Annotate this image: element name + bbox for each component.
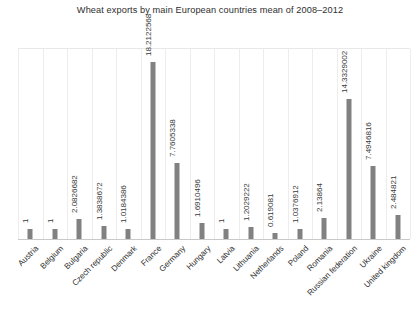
bar-value-label: 1.0376912 — [291, 185, 300, 223]
bar-value-label: 1 — [46, 219, 55, 223]
bar-value-label: 1.0184386 — [119, 185, 128, 223]
bar[interactable] — [101, 226, 106, 239]
bar[interactable] — [273, 233, 278, 239]
bar-value-label: 1 — [217, 219, 226, 223]
bar-value-label: 0.619081 — [266, 194, 275, 227]
category-label: Hungary — [184, 244, 212, 272]
category-label: Latvia — [215, 244, 236, 265]
bar[interactable] — [77, 219, 82, 239]
bar-slot: 2.13864 — [312, 49, 337, 239]
gridline — [410, 49, 411, 239]
bar-value-label: 7.4946816 — [364, 122, 373, 160]
bar[interactable] — [199, 223, 204, 239]
bar-value-label: 2.13864 — [315, 183, 324, 212]
bar[interactable] — [248, 227, 253, 239]
bar[interactable] — [126, 229, 131, 239]
bar-value-label: 7.7605338 — [168, 120, 177, 158]
bar-slot: 1 — [43, 49, 68, 239]
bar[interactable] — [322, 218, 327, 239]
category-axis-labels: AustriaBelgiumBulgariaCzech republicDenm… — [18, 242, 410, 330]
bar-value-label: 1 — [21, 219, 30, 223]
bar-slot: 7.4946816 — [361, 49, 386, 239]
bar-slot: 14.3329002 — [337, 49, 362, 239]
bar-value-label: 2.0826682 — [70, 175, 79, 213]
bar-value-label: 14.3329002 — [340, 51, 349, 93]
bar-slot: 0.619081 — [263, 49, 288, 239]
bar[interactable] — [28, 229, 33, 239]
bar[interactable] — [346, 99, 351, 239]
bar-slot: 1 — [214, 49, 239, 239]
chart-title: Wheat exports by main European countries… — [0, 5, 420, 15]
bar[interactable] — [395, 215, 400, 239]
bar[interactable] — [371, 166, 376, 239]
bar-value-label: 1.2029222 — [242, 183, 251, 221]
category-label: Denmark — [109, 244, 138, 273]
bar-slot: 2.484821 — [386, 49, 411, 239]
bar[interactable] — [52, 229, 57, 239]
category-label: Austria — [17, 244, 41, 268]
bar-slot: 18.2122568 — [141, 49, 166, 239]
bar-slot: 1.0184386 — [116, 49, 141, 239]
category-label: Belgium — [38, 244, 65, 271]
bar-slot: 1.6910496 — [190, 49, 215, 239]
bar[interactable] — [297, 229, 302, 239]
bar-slot: 1.2029222 — [239, 49, 264, 239]
bar-chart: Wheat exports by main European countries… — [0, 0, 420, 330]
bar-value-label: 2.484821 — [389, 175, 398, 208]
bar-slot: 2.0826682 — [67, 49, 92, 239]
bar-slot: 1.3838672 — [92, 49, 117, 239]
plot-area: 112.08266821.38386721.018438618.21225687… — [18, 48, 410, 240]
bar[interactable] — [150, 62, 155, 239]
bar-value-label: 18.2122568 — [144, 13, 153, 55]
bar-slot: 1.0376912 — [288, 49, 313, 239]
bar[interactable] — [224, 229, 229, 239]
bar-value-label: 1.6910496 — [193, 179, 202, 217]
bar-value-label: 1.3838672 — [95, 182, 104, 220]
bars-layer: 112.08266821.38386721.018438618.21225687… — [18, 49, 410, 239]
bar-slot: 7.7605338 — [165, 49, 190, 239]
bar-slot: 1 — [18, 49, 43, 239]
bar[interactable] — [175, 163, 180, 239]
